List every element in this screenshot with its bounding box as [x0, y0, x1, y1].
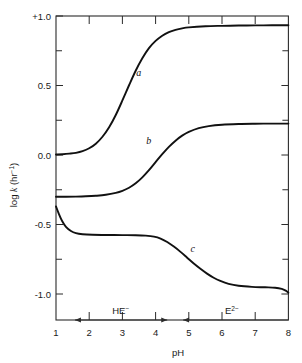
curve-label-b: b	[146, 135, 151, 146]
y-tick-label-minus1.0: -1.0	[35, 289, 51, 300]
chart-figure: +1.0 0.5 0.0 -0.5 -1.0 1 2 3 4 5 6 7 8 p…	[0, 0, 302, 363]
e2-region-label-sup: 2−	[231, 305, 239, 312]
x-tick-label-1: 1	[53, 327, 58, 338]
y-tick-label-1.0: +1.0	[32, 11, 51, 22]
curve-label-a: a	[136, 67, 141, 78]
x-tick-label-2: 2	[87, 327, 92, 338]
curve-label-c: c	[190, 243, 195, 254]
x-axis-title: pH	[172, 347, 184, 358]
x-tick-label-3: 3	[120, 327, 125, 338]
x-tick-label-4: 4	[153, 327, 158, 338]
x-tick-label-7: 7	[253, 327, 258, 338]
y-tick-label-0.0: 0.0	[38, 150, 51, 161]
y-axis-title-suffix: (hr	[8, 173, 19, 187]
x-tick-label-6: 6	[219, 327, 224, 338]
he-region-label-sup: −	[125, 305, 129, 312]
y-tick-label-0.5: 0.5	[38, 80, 51, 91]
he-region-label-text: HE	[112, 305, 125, 316]
x-tick-label-5: 5	[186, 327, 191, 338]
chart-svg: +1.0 0.5 0.0 -0.5 -1.0 1 2 3 4 5 6 7 8 p…	[0, 0, 302, 363]
x-tick-label-8: 8	[286, 327, 291, 338]
chart-background	[0, 0, 302, 363]
y-axis-title-tail: )	[8, 163, 19, 166]
y-tick-label-minus0.5: -0.5	[35, 219, 51, 230]
y-axis-title-prefix: log	[8, 192, 19, 207]
